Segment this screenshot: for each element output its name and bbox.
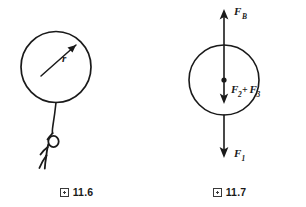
force-label-f3-subscript: 3 [256,90,261,99]
missing-glyph-box-icon [60,188,69,197]
missing-glyph-box-icon [213,188,222,197]
figure-sheet: r 11.6 [0,0,306,207]
figure-caption-11-7: 11.7 [153,178,306,207]
stick-figure-head [48,136,58,147]
figure-panel-11-7: F B F 2 + F 3 F 1 11.7 [153,0,306,207]
figure-caption-11-6: 11.6 [0,178,153,207]
figure-caption-number: 11.7 [226,187,247,198]
balloon-string [52,103,56,134]
force-arrow-weight-outer [220,115,229,158]
force-label-weight-inner: F 2 + F 3 [230,83,261,99]
balloon-illustration: r [0,0,153,178]
force-label-f1-subscript: 1 [242,154,246,163]
radius-arrow [41,45,76,76]
balloon-circle [21,32,91,103]
force-label-buoyant-subscript: B [241,12,247,21]
figure-caption-number: 11.6 [73,187,94,198]
force-label-buoyant: F B [233,5,247,21]
stick-figure [39,133,58,168]
free-body-diagram: F B F 2 + F 3 F 1 [153,0,306,178]
force-label-plus-operator: + [242,84,248,95]
force-label-buoyant-symbol: F [233,5,242,17]
figure-panel-11-6: r 11.6 [0,0,153,207]
force-arrow-weight-inner [220,80,228,104]
radius-label: r [62,52,67,64]
force-label-weight-outer: F 1 [233,147,245,163]
